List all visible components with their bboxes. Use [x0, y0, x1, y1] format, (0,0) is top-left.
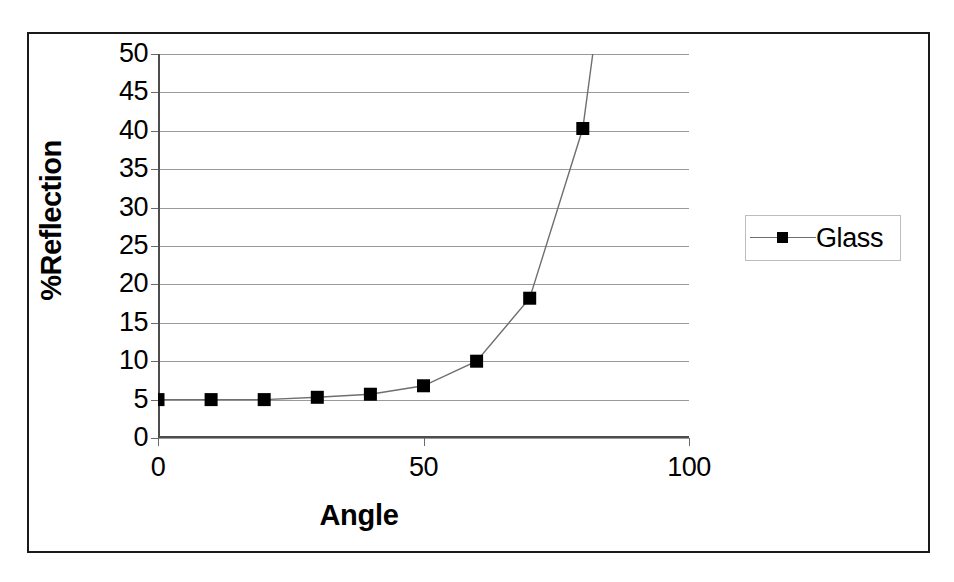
y-tick-mark — [151, 92, 158, 93]
legend: Glass — [745, 215, 901, 261]
y-tick-mark — [151, 131, 158, 132]
y-tick-label: 45 — [28, 78, 148, 105]
data-point-marker — [576, 122, 589, 135]
data-point-marker — [311, 391, 324, 404]
y-tick-label: 25 — [28, 232, 148, 259]
y-tick-mark — [151, 169, 158, 170]
y-tick-mark — [151, 400, 158, 401]
x-tick-mark — [424, 438, 425, 446]
series-glass — [158, 54, 689, 438]
y-tick-label: 5 — [28, 386, 148, 413]
y-tick-label: 10 — [28, 347, 148, 374]
legend-label: Glass — [816, 223, 883, 254]
y-tick-mark — [151, 208, 158, 209]
data-point-marker — [470, 355, 483, 368]
series-line — [158, 54, 636, 400]
x-tick-label: 50 — [364, 452, 484, 483]
y-tick-label: 35 — [28, 155, 148, 182]
y-tick-mark — [151, 246, 158, 247]
y-tick-mark — [151, 54, 158, 55]
legend-entry-glass: Glass — [746, 216, 900, 260]
x-axis-title: Angle — [29, 499, 689, 532]
y-tick-mark — [151, 323, 158, 324]
plot-area: 05101520253035404550 050100 — [158, 54, 689, 438]
y-tick-label: 30 — [28, 194, 148, 221]
y-tick-label: 15 — [28, 309, 148, 336]
data-point-marker — [417, 379, 430, 392]
x-tick-mark — [158, 438, 159, 446]
data-point-marker — [158, 393, 165, 406]
x-tick-label: 100 — [629, 452, 749, 483]
y-tick-label: 20 — [28, 270, 148, 297]
data-point-marker — [364, 388, 377, 401]
data-point-marker — [523, 292, 536, 305]
chart-figure: %Reflection Angle 05101520253035404550 0… — [27, 32, 930, 553]
y-tick-mark — [151, 438, 158, 439]
y-tick-mark — [151, 361, 158, 362]
data-point-marker — [205, 393, 218, 406]
x-tick-label: 0 — [98, 452, 218, 483]
y-tick-mark — [151, 284, 158, 285]
y-tick-label: 0 — [28, 424, 148, 451]
data-point-marker — [258, 393, 271, 406]
legend-marker-icon — [750, 228, 816, 248]
y-tick-label: 50 — [28, 40, 148, 67]
y-tick-label: 40 — [28, 117, 148, 144]
x-tick-mark — [689, 438, 690, 446]
